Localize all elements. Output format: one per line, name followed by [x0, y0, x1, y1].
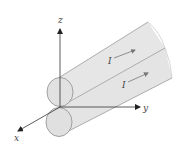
- current-label-upper: I: [107, 56, 112, 66]
- current-label-lower: I: [121, 80, 126, 90]
- parallel-conductors-diagram: I I z y x: [0, 0, 179, 145]
- lower-conductor-end-face: [46, 108, 72, 137]
- y-axis-label: y: [142, 103, 149, 113]
- x-axis-label: x: [14, 133, 19, 143]
- z-axis-label: z: [57, 15, 63, 25]
